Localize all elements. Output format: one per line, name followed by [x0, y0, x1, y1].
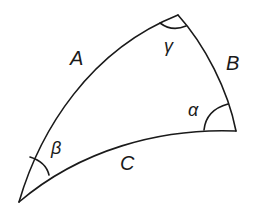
beta-angle-arc	[30, 157, 49, 175]
side-B-label: B	[226, 52, 239, 74]
side-A-label: A	[69, 47, 83, 69]
diagram-svg: A B C α β γ	[0, 0, 253, 212]
alpha-angle-arc	[204, 104, 228, 130]
side-C-label: C	[120, 152, 135, 174]
spherical-triangle-diagram: A B C α β γ	[0, 0, 253, 212]
alpha-label: α	[188, 100, 199, 120]
gamma-label: γ	[164, 36, 174, 56]
beta-label: β	[50, 138, 61, 158]
gamma-angle-arc	[160, 23, 186, 28]
side-A-arc	[19, 15, 178, 202]
